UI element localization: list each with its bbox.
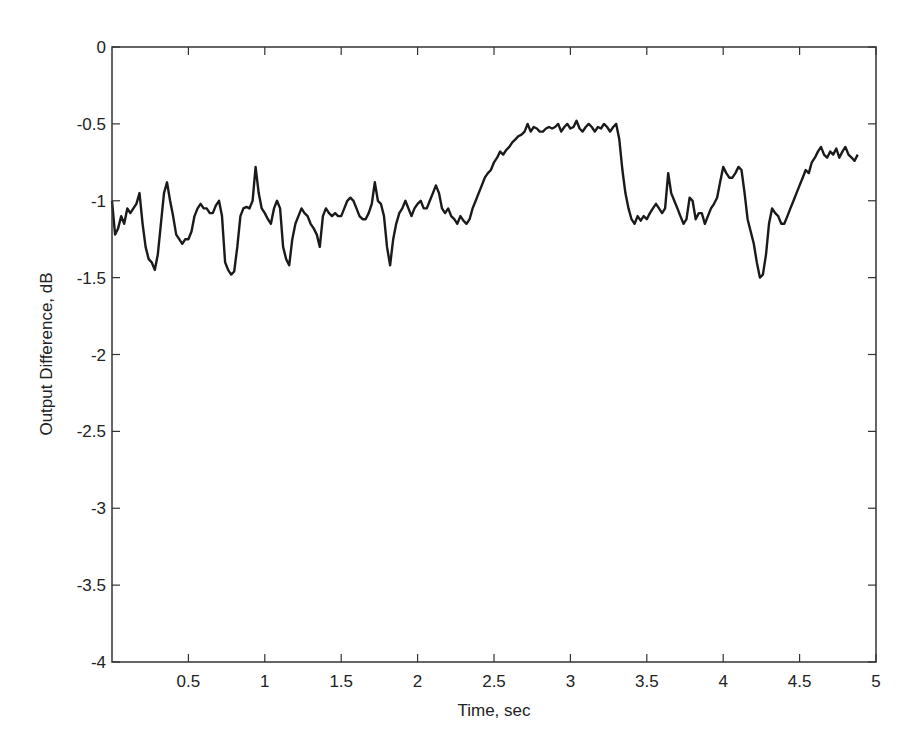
y-tick-label: -3: [91, 499, 106, 518]
y-tick-label: -3.5: [77, 576, 106, 595]
x-tick-label: 2.5: [482, 672, 506, 691]
y-tick-label: -2.5: [77, 422, 106, 441]
y-tick-labels: 0-0.5-1-1.5-2-2.5-3-3.5-4: [77, 38, 106, 672]
x-tick-label: 3: [566, 672, 575, 691]
y-tick-label: 0: [97, 38, 106, 57]
y-axis-label: Output Difference, dB: [37, 272, 56, 435]
y-tick-label: -1: [91, 192, 106, 211]
y-tick-label: -1.5: [77, 269, 106, 288]
x-tick-label: 4.5: [788, 672, 812, 691]
plot-background: [112, 47, 876, 662]
x-tick-label: 3.5: [635, 672, 659, 691]
x-tick-label: 2: [413, 672, 422, 691]
line-chart: 0-0.5-1-1.5-2-2.5-3-3.5-4 0.511.522.533.…: [0, 0, 913, 754]
x-tick-labels: 0.511.522.533.544.55: [177, 672, 881, 691]
x-tick-label: 1.5: [329, 672, 353, 691]
y-tick-label: -0.5: [77, 115, 106, 134]
x-tick-label: 0.5: [177, 672, 201, 691]
x-tick-label: 1: [260, 672, 269, 691]
x-tick-label: 4: [718, 672, 727, 691]
y-tick-label: -2: [91, 346, 106, 365]
x-tick-label: 5: [871, 672, 880, 691]
y-tick-label: -4: [91, 653, 106, 672]
x-axis-label: Time, sec: [457, 701, 531, 720]
